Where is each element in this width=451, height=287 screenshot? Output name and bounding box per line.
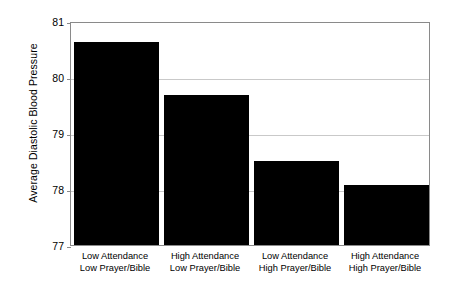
x-axis-category-labels: Low AttendanceLow Prayer/BibleHigh Atten… <box>70 250 430 284</box>
x-axis-label-line2: High Prayer/Bible <box>250 262 340 274</box>
plot-area <box>70 22 430 246</box>
x-axis-label: High AttendanceLow Prayer/Bible <box>160 250 250 274</box>
x-axis-label: Low AttendanceLow Prayer/Bible <box>70 250 160 274</box>
x-axis-label-line2: High Prayer/Bible <box>340 262 430 274</box>
y-axis-tick-label: 78 <box>36 185 64 195</box>
x-axis-label-line1: Low Attendance <box>70 250 160 262</box>
x-axis-label-line2: Low Prayer/Bible <box>160 262 250 274</box>
y-axis-tick <box>67 247 71 248</box>
bar <box>344 185 429 245</box>
x-axis-label: High AttendanceHigh Prayer/Bible <box>340 250 430 274</box>
bar <box>164 95 249 245</box>
y-axis-tick-label: 79 <box>36 129 64 139</box>
y-axis-tick-label: 77 <box>36 241 64 251</box>
bar-chart: Average Diastolic Blood Pressure 7778798… <box>0 0 451 287</box>
x-axis-label-line1: High Attendance <box>340 250 430 262</box>
x-axis-label: Low AttendanceHigh Prayer/Bible <box>250 250 340 274</box>
y-axis-tick-labels: 7778798081 <box>36 22 64 246</box>
x-axis-label-line2: Low Prayer/Bible <box>70 262 160 274</box>
y-axis-tick-label: 81 <box>36 17 64 27</box>
bar <box>254 161 339 245</box>
bar <box>74 42 159 245</box>
y-axis-tick-label: 80 <box>36 73 64 83</box>
x-axis-label-line1: High Attendance <box>160 250 250 262</box>
x-axis-label-line1: Low Attendance <box>250 250 340 262</box>
bars-group <box>71 23 429 245</box>
